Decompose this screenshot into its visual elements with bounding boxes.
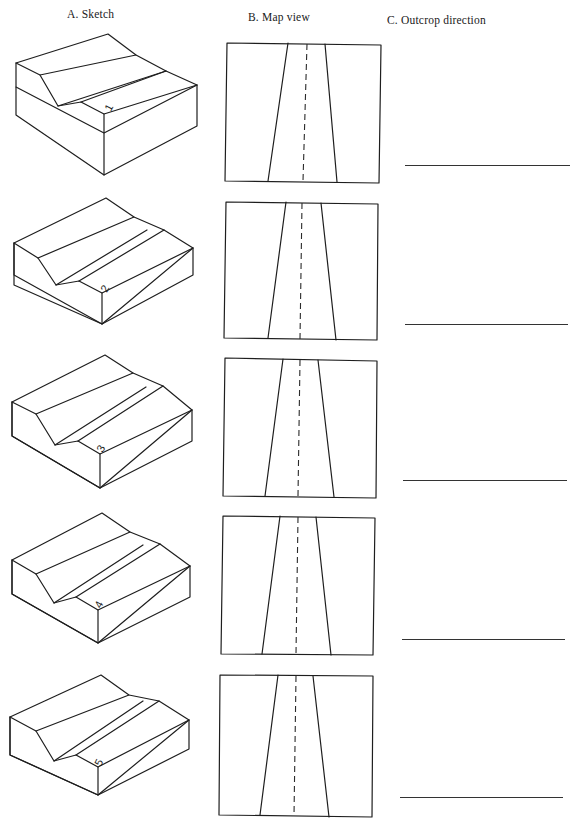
answer-line-1[interactable] (405, 165, 570, 166)
map-view-box (217, 665, 377, 815)
map-view-box (220, 350, 380, 500)
valley-axis-dashed-line (294, 676, 296, 816)
exercise-row-5: 5 (0, 665, 575, 822)
exercise-row-2: 2 (0, 193, 575, 351)
sketch-number-1: 1 (102, 102, 115, 113)
header-map-view: B. Map view (248, 11, 310, 23)
header-outcrop-direction: C. Outcrop direction (387, 14, 486, 26)
answer-line-3[interactable] (403, 480, 567, 481)
map-view-box (218, 508, 378, 658)
valley-axis-dashed-line (298, 360, 300, 496)
block-diagram-sketch: 3 (10, 350, 220, 500)
valley-axis-dashed-line (300, 203, 302, 339)
valley-axis-dashed-line (296, 517, 298, 654)
block-diagram-sketch: 2 (10, 193, 220, 343)
answer-line-5[interactable] (400, 797, 563, 798)
sketch-number-5: 5 (92, 757, 105, 768)
block-diagram-sketch: 1 (10, 35, 220, 185)
exercise-row-1: 1 (0, 35, 575, 193)
map-view-box (222, 193, 382, 343)
block-diagram-sketch: 5 (6, 665, 216, 815)
header-sketch: A. Sketch (67, 8, 114, 20)
answer-line-4[interactable] (402, 639, 565, 640)
exercise-row-3: 3 (0, 350, 575, 508)
exercise-row-4: 4 (0, 508, 575, 666)
block-diagram-sketch: 4 (8, 508, 218, 658)
map-view-box (222, 35, 382, 185)
valley-axis-dashed-line (303, 44, 307, 181)
answer-line-2[interactable] (405, 324, 568, 325)
